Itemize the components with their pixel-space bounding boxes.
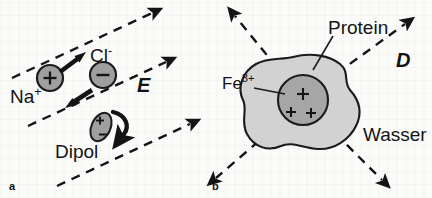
torque-arrow <box>113 112 127 134</box>
panel-label-a: a <box>9 181 15 192</box>
protein-label: Protein <box>328 18 388 37</box>
electric-field-label: E <box>137 75 150 95</box>
iron-label: Fe3+ <box>222 73 255 92</box>
sodium-charge-sup: + <box>34 85 41 99</box>
chloride-label: Cl- <box>90 45 112 65</box>
chloride-charge-sup: - <box>108 44 112 58</box>
iron-charge-sup: 3+ <box>242 72 255 84</box>
displacement-field-label: D <box>396 50 410 70</box>
sodium-label: Na+ <box>10 86 42 106</box>
panel-label-b: b <box>212 181 219 192</box>
field-line-a-1 <box>12 13 152 78</box>
water-label: Wasser <box>363 125 427 144</box>
dipole-label: Dipol <box>55 142 98 161</box>
figure-root: Na+ Cl- E Dipol Fe3+ Protein D Wasser a … <box>0 0 432 198</box>
dipole-molecule <box>86 109 116 144</box>
